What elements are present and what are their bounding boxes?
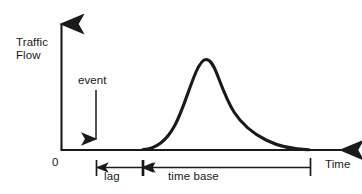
lag-label: lag (104, 170, 120, 182)
traffic-flow-curve (143, 60, 309, 150)
origin-label: 0 (52, 156, 59, 168)
event-label: event (78, 74, 107, 86)
time-base-label: time base (168, 170, 219, 182)
y-axis-label-line2: Flow (16, 49, 41, 61)
y-axis-label-line1: Traffic (16, 36, 48, 48)
y-axis-label: TrafficFlow (16, 36, 48, 62)
traffic-flow-diagram: TrafficFlow event 0 Time lag time base (0, 0, 362, 194)
x-axis-label: Time (325, 158, 351, 170)
